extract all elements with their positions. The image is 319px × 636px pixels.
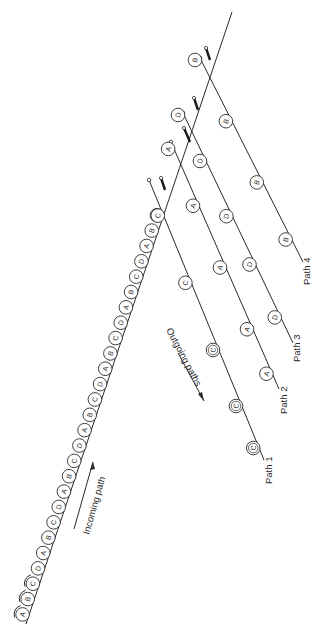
item-token-c: C (179, 276, 193, 290)
item-token-d: D (73, 439, 87, 453)
item-token-d: D (31, 562, 45, 576)
item-token-c: C (109, 331, 123, 345)
item-token-a: A (213, 261, 227, 275)
item-token-a: A (36, 546, 50, 560)
incoming-line (26, 12, 232, 624)
item-token-c: C (229, 399, 243, 413)
item-token-a: A (240, 322, 254, 336)
item-token-c: C (246, 441, 260, 455)
item-token-a: A (260, 367, 274, 381)
item-token-a: A (14, 606, 29, 622)
item-token-b: B (279, 233, 293, 247)
item-token-c: C (47, 515, 61, 529)
item-token-d: D (135, 254, 149, 268)
switch-pivot (204, 46, 207, 49)
item-token-a: A (78, 423, 92, 437)
item-token-c: C (206, 343, 220, 357)
item-token-d: D (193, 154, 207, 168)
item-token-b: B (62, 469, 76, 483)
item-token-b: B (104, 347, 118, 361)
item-token-b: B (145, 224, 159, 238)
sorting-diagram: ABCDABCDABCDABCDABCDABCDABD CCCCCAAAAADD… (0, 0, 319, 636)
item-token-c: C (24, 575, 39, 591)
item-token-a: A (186, 199, 200, 213)
switch-points (159, 46, 210, 190)
path-1-label: Path 1 (263, 457, 274, 484)
item-token-d: D (171, 108, 185, 122)
switch-pivot (182, 126, 185, 129)
item-token-b: B (250, 176, 264, 190)
item-token-d: D (52, 500, 66, 514)
path-3: DDDDD (171, 108, 293, 343)
item-token-a: A (57, 485, 71, 499)
item-token-d: D (114, 316, 128, 330)
pivot-point (147, 178, 151, 182)
outgoing-paths-label: Outgoing paths (164, 326, 204, 388)
path-4-line (200, 58, 303, 262)
item-token-c: C (88, 393, 102, 407)
incoming-path-label: Incoming path (80, 475, 107, 535)
incoming-path: ABCDABCDABCDABCDABCDABCDABD (14, 12, 232, 624)
item-token-b: B (19, 590, 34, 606)
switch-pivot (192, 96, 195, 99)
item-token-d: D (268, 311, 282, 325)
item-token-b: B (124, 285, 138, 299)
path-2-label: Path 2 (278, 387, 289, 414)
item-token-a: A (161, 142, 175, 156)
item-token-c: C (151, 209, 165, 223)
item-token-b: B (188, 53, 202, 67)
item-token-d: D (243, 258, 257, 272)
item-token-b: B (42, 531, 56, 545)
path-3-line (183, 113, 293, 343)
switch-pivot (159, 176, 162, 179)
item-token-d: D (93, 377, 107, 391)
item-token-b: B (83, 408, 97, 422)
item-token-d: D (220, 209, 234, 223)
item-token-a: A (98, 362, 112, 376)
path-3-label: Path 3 (291, 335, 302, 362)
path-4-label: Path 4 (301, 258, 312, 285)
item-token-b: B (219, 114, 233, 128)
item-token-c: C (67, 454, 81, 468)
item-token-a: A (140, 239, 154, 253)
switch-gate (184, 128, 190, 142)
item-token-a: A (119, 301, 133, 315)
item-token-c: C (129, 270, 143, 284)
